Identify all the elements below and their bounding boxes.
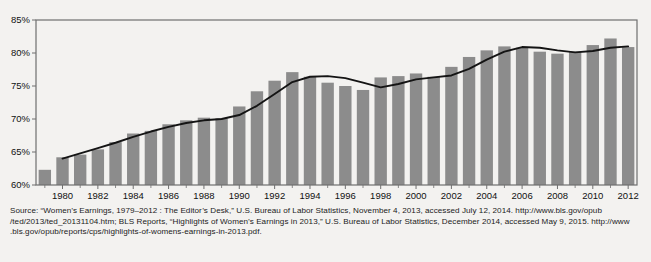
bar — [215, 118, 227, 185]
y-tick-label: 60% — [11, 179, 31, 190]
x-tick-label: 2000 — [405, 190, 426, 200]
bar — [622, 47, 634, 185]
x-tick-label: 1980 — [52, 190, 73, 200]
x-tick-label: 1998 — [370, 190, 391, 200]
bar — [410, 73, 422, 185]
bar — [127, 134, 139, 185]
x-tick-label: 1988 — [193, 190, 214, 200]
bar — [534, 52, 546, 185]
earnings-ratio-chart: 60%65%70%75%80%85%1980198219841986198819… — [0, 0, 651, 200]
bar — [321, 83, 333, 185]
y-tick-label: 85% — [11, 14, 31, 25]
source-note: Source: “Women’s Earnings, 1979–2012 : T… — [10, 206, 646, 238]
bar — [481, 50, 493, 185]
bar — [286, 72, 298, 185]
x-tick-label: 1986 — [158, 190, 179, 200]
bar — [516, 48, 528, 185]
bar — [551, 54, 563, 185]
x-tick-label: 1996 — [335, 190, 356, 200]
bar — [109, 142, 121, 185]
source-line-3: .bls.gov/opub/reports/cps/highlights-of-… — [10, 227, 646, 238]
x-tick-label: 2010 — [582, 190, 603, 200]
x-tick-label: 2002 — [441, 190, 462, 200]
bar — [428, 77, 440, 185]
bar — [198, 118, 210, 185]
y-tick-label: 75% — [11, 80, 31, 91]
bar — [357, 90, 369, 185]
y-tick-label: 70% — [11, 113, 31, 124]
bar — [180, 120, 192, 185]
bar — [74, 155, 86, 185]
plot-background — [36, 20, 637, 185]
bar — [162, 124, 174, 185]
bar — [463, 57, 475, 185]
x-tick-label: 2006 — [512, 190, 533, 200]
x-tick-label: 1984 — [123, 190, 144, 200]
bar — [233, 106, 245, 185]
source-line-1: Source: “Women’s Earnings, 1979–2012 : T… — [10, 206, 646, 217]
bar — [92, 149, 104, 185]
bar — [39, 170, 51, 185]
x-tick-label: 2008 — [547, 190, 568, 200]
y-tick-label: 80% — [11, 47, 31, 58]
bar — [56, 157, 68, 185]
bar — [304, 77, 316, 185]
bar — [587, 45, 599, 185]
bar — [392, 76, 404, 185]
figure-container: 60%65%70%75%80%85%1980198219841986198819… — [0, 0, 651, 262]
x-tick-label: 1994 — [299, 190, 320, 200]
bar — [145, 131, 157, 185]
chart-plot-region: 60%65%70%75%80%85%1980198219841986198819… — [0, 0, 651, 200]
bar — [569, 52, 581, 185]
x-tick-label: 1990 — [229, 190, 250, 200]
bar — [375, 77, 387, 185]
x-tick-label: 2004 — [476, 190, 497, 200]
y-tick-label: 65% — [11, 146, 31, 157]
bar — [339, 86, 351, 185]
x-tick-label: 1982 — [87, 190, 108, 200]
bar — [445, 67, 457, 185]
bar — [498, 46, 510, 185]
x-tick-label: 1992 — [264, 190, 285, 200]
x-tick-label: 2012 — [618, 190, 639, 200]
bar — [604, 38, 616, 185]
source-line-2: /ted/2013/ted_20131104.htm; BLS Reports,… — [10, 217, 646, 228]
